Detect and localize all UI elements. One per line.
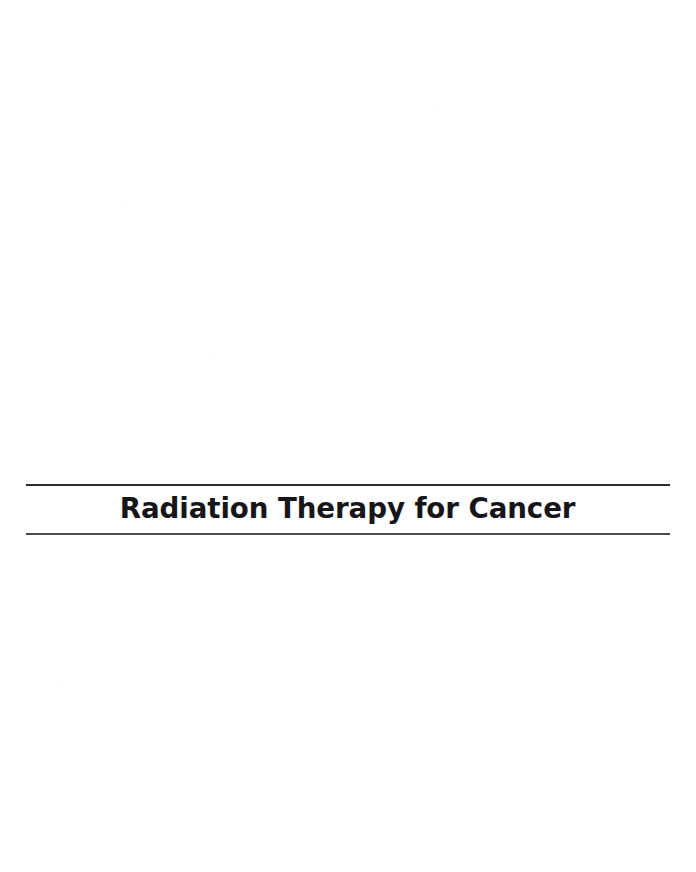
document-page: Radiation Therapy for Cancer [0, 0, 696, 872]
paper-texture [0, 0, 696, 872]
horizontal-rule-below-title [26, 533, 670, 535]
page-title: Radiation Therapy for Cancer [120, 494, 576, 525]
title-row: Radiation Therapy for Cancer [26, 486, 670, 533]
chapter-title-block: Radiation Therapy for Cancer [26, 484, 670, 535]
